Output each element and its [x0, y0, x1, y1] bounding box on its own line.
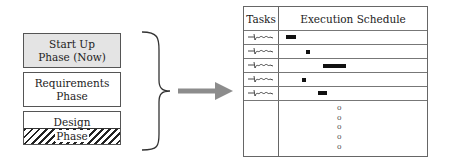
continuation-dot: o	[337, 104, 342, 112]
schedule-bar	[318, 91, 327, 95]
continuation-dot: o	[337, 133, 342, 141]
task-placeholder-squiggle-icon	[248, 74, 274, 84]
task-placeholder-squiggle-icon	[248, 46, 274, 56]
row-divider	[244, 44, 427, 45]
row-divider	[244, 86, 427, 87]
task-placeholder-squiggle-icon	[248, 60, 274, 70]
schedule-bar	[306, 50, 310, 54]
header-execution-schedule: Execution Schedule	[279, 7, 427, 31]
schedule-bar	[302, 78, 306, 82]
phase-label-line2-wrap: Phase	[24, 130, 120, 143]
right-arrow-icon	[178, 82, 233, 100]
row-divider	[244, 72, 427, 73]
phase-label-line1: Design	[54, 116, 91, 129]
schedule-bar	[286, 35, 296, 39]
row-divider	[244, 58, 427, 59]
continuation-dot: o	[337, 143, 342, 151]
row-divider	[244, 30, 427, 31]
task-schedule-table: Tasks Execution Schedule o o o o o	[243, 6, 428, 157]
schedule-bar	[323, 64, 346, 68]
row-divider	[244, 100, 427, 101]
continuation-dot: o	[337, 114, 342, 122]
task-placeholder-squiggle-icon	[248, 88, 274, 98]
continuation-dot: o	[337, 123, 342, 131]
header-tasks: Tasks	[244, 7, 278, 31]
task-placeholder-squiggle-icon	[248, 32, 274, 42]
phase-label-line2: Phase	[55, 130, 89, 142]
curly-brace-icon	[142, 32, 170, 150]
